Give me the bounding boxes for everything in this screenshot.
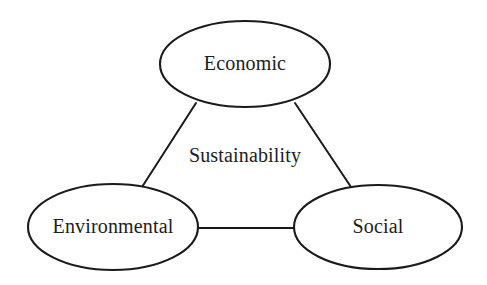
node-label-environmental: Environmental (53, 215, 174, 237)
link-economic-environmental (142, 103, 196, 187)
diagram-canvas: Economic Environmental Social Sustainabi… (0, 0, 487, 285)
node-label-economic: Economic (204, 52, 286, 74)
center-label-sustainability: Sustainability (189, 144, 301, 167)
node-label-social: Social (353, 215, 404, 237)
sustainability-diagram: Economic Environmental Social Sustainabi… (0, 0, 487, 285)
link-economic-social (295, 103, 351, 187)
